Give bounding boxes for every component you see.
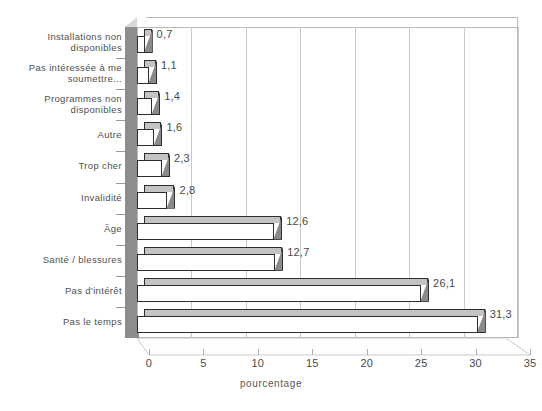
category-label-4: Trop cher bbox=[4, 160, 122, 171]
x-tick-mark-30 bbox=[476, 349, 477, 355]
category-label-0: Installations non disponibles bbox=[4, 31, 122, 53]
x-tick-mark-35 bbox=[530, 349, 531, 355]
bar-value-label-3: 1,6 bbox=[166, 121, 182, 133]
category-label-2: Programmes non disponibles bbox=[4, 93, 122, 115]
x-tick-label-0: 0 bbox=[146, 357, 152, 369]
gridline-35 bbox=[518, 27, 519, 338]
x-tick-label-25: 25 bbox=[415, 357, 428, 369]
category-tick-7 bbox=[116, 245, 125, 246]
bar-8 bbox=[137, 285, 421, 302]
bar-value-label-5: 2,8 bbox=[179, 184, 195, 196]
category-tick-9 bbox=[116, 307, 125, 308]
bar-top-face bbox=[144, 91, 159, 98]
bar-7 bbox=[137, 254, 275, 271]
x-tick-mark-5 bbox=[203, 349, 204, 355]
bar-0 bbox=[137, 36, 145, 53]
category-label-1: Pas intéressée à me soumettre... bbox=[4, 62, 122, 84]
category-label-9: Pas le temps bbox=[4, 316, 122, 327]
bar-2 bbox=[137, 98, 152, 115]
bar-chart: 0,71,11,41,62,32,812,612,726,131,3 Insta… bbox=[0, 0, 542, 411]
bar-3 bbox=[137, 129, 154, 146]
x-tick-mark-10 bbox=[258, 349, 259, 355]
bar-top-face bbox=[144, 185, 174, 192]
plot-wall-top-face bbox=[137, 17, 518, 27]
x-tick-mark-20 bbox=[367, 349, 368, 355]
gridline-30 bbox=[464, 27, 465, 338]
bar-top-face bbox=[144, 309, 485, 316]
x-tick-label-5: 5 bbox=[200, 357, 206, 369]
bar-top-face bbox=[144, 122, 161, 129]
category-tick-8 bbox=[116, 276, 125, 277]
category-tick-1 bbox=[116, 58, 125, 59]
category-label-5: Invalidité bbox=[4, 192, 122, 203]
category-tick-5 bbox=[116, 183, 125, 184]
category-label-8: Pas d'intérêt bbox=[4, 285, 122, 296]
bar-value-label-7: 12,7 bbox=[287, 246, 309, 258]
bar-6 bbox=[137, 223, 274, 240]
category-tick-6 bbox=[116, 214, 125, 215]
category-label-7: Santé / blessures bbox=[4, 254, 122, 265]
bar-value-label-4: 2,3 bbox=[174, 152, 190, 164]
category-label-6: Âge bbox=[4, 223, 122, 234]
x-tick-label-15: 15 bbox=[306, 357, 319, 369]
x-tick-label-30: 30 bbox=[469, 357, 482, 369]
bar-value-label-8: 26,1 bbox=[433, 277, 455, 289]
bar-top-face bbox=[144, 153, 169, 160]
x-tick-mark-15 bbox=[312, 349, 313, 355]
bar-4 bbox=[137, 160, 162, 177]
x-tick-label-10: 10 bbox=[252, 357, 265, 369]
category-axis-wall bbox=[125, 27, 137, 338]
bar-value-label-1: 1,1 bbox=[161, 59, 177, 71]
category-tick-3 bbox=[116, 120, 125, 121]
plot-floor bbox=[125, 338, 530, 356]
category-tick-4 bbox=[116, 151, 125, 152]
category-label-3: Autre bbox=[4, 129, 122, 140]
x-tick-label-35: 35 bbox=[524, 357, 537, 369]
x-tick-label-20: 20 bbox=[360, 357, 373, 369]
x-tick-mark-25 bbox=[421, 349, 422, 355]
bar-value-label-6: 12,6 bbox=[286, 215, 308, 227]
category-tick-2 bbox=[116, 89, 125, 90]
x-axis-title: pourcentage bbox=[0, 378, 542, 389]
bar-1 bbox=[137, 67, 149, 84]
bar-top-face bbox=[144, 247, 282, 254]
bar-9 bbox=[137, 316, 478, 333]
bar-top-face bbox=[144, 60, 156, 67]
bar-top-face bbox=[144, 216, 281, 223]
bar-value-label-2: 1,4 bbox=[164, 90, 180, 102]
left-wall-top-face bbox=[125, 17, 137, 27]
x-tick-mark-0 bbox=[149, 349, 150, 355]
bar-5 bbox=[137, 192, 167, 209]
bar-value-label-9: 31,3 bbox=[490, 308, 512, 320]
bar-top-face bbox=[144, 278, 428, 285]
bar-value-label-0: 0,7 bbox=[157, 28, 173, 40]
